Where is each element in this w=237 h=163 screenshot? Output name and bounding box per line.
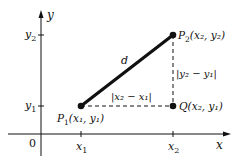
- y-axis-label: y: [46, 8, 54, 22]
- point-p1-icon: [78, 103, 85, 110]
- x1-tick-label: x1: [76, 140, 87, 155]
- p2-label: P2(x₂, y₂): [177, 29, 225, 44]
- point-p2-icon: [170, 32, 177, 39]
- y-axis-arrow-icon: [39, 10, 44, 18]
- x2-tick-label: x2: [168, 140, 179, 155]
- distance-label: d: [121, 54, 128, 67]
- p1-label: P1(x₁, y₁): [56, 112, 104, 127]
- vertical-distance-label: |y₂ − y₁|: [176, 68, 217, 80]
- y2-tick-label: y2: [24, 28, 36, 43]
- q-label: Q(x₂, y₁): [179, 100, 223, 113]
- point-q-icon: [170, 103, 177, 110]
- x-axis-label: x: [216, 138, 223, 152]
- y1-tick-label: y1: [24, 99, 36, 114]
- distance-diagram: y x 0 y2 y1 x1 x2 P2(x₂, y₂) P1(x₁, y₁) …: [0, 0, 237, 163]
- diagram-canvas: y x 0 y2 y1 x1 x2 P2(x₂, y₂) P1(x₁, y₁) …: [0, 0, 237, 163]
- origin-label: 0: [29, 137, 36, 150]
- x-axis-arrow-icon: [223, 132, 231, 137]
- horizontal-distance-label: |x₂ − x₁|: [111, 91, 152, 103]
